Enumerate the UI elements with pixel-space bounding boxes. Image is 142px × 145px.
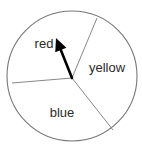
sector-label-yellow: yellow	[89, 60, 126, 75]
spinner-graphic: red yellow blue	[0, 0, 142, 145]
sector-label-red: red	[35, 36, 54, 51]
sector-label-blue: blue	[50, 105, 75, 120]
spinner-figure: red yellow blue	[0, 0, 142, 145]
